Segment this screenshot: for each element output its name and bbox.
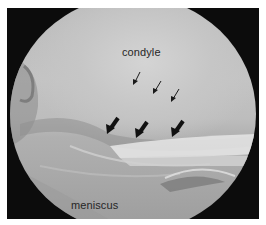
thick-arrow-icon [171,121,183,137]
thick-arrow-icon [135,122,147,138]
meniscus-label: meniscus [71,199,118,211]
thin-arrow-icon [153,81,161,94]
thin-arrow-icon [171,89,179,102]
condyle-label: condyle [122,46,161,58]
arthroscopy-figure: condyle meniscus [7,8,259,219]
thin-arrow-icon [133,72,140,85]
thick-arrow-icon [106,118,118,134]
annotation-arrows [7,8,259,219]
